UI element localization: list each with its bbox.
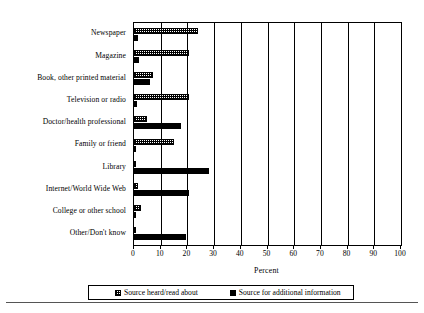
legend: Source heard/read about Source for addit…	[88, 285, 354, 300]
bar-group	[134, 90, 401, 112]
legend-item-heard-read-about: Source heard/read about	[115, 288, 198, 297]
bar	[134, 161, 136, 167]
y-axis-label: Magazine	[2, 44, 130, 66]
bar	[134, 212, 136, 218]
legend-label: Source heard/read about	[124, 288, 198, 297]
bar	[134, 35, 138, 41]
legend-swatch-checkered-icon	[115, 290, 121, 296]
x-axis-tick-label: 80	[343, 250, 351, 258]
bar-spacer	[134, 211, 401, 212]
legend-swatch-solid-icon	[230, 290, 236, 296]
y-axis-label: Internet/World Wide Web	[2, 177, 130, 199]
y-axis-label: Newspaper	[2, 22, 130, 44]
y-axis-label: Doctor/health professional	[2, 111, 130, 133]
x-axis-tick-label: 0	[131, 250, 135, 258]
legend-item-additional-information: Source for additional information	[230, 288, 341, 297]
y-axis-category-labels: Newspaper Magazine Book, other printed m…	[2, 22, 130, 244]
bar-spacer	[134, 78, 401, 79]
bar-group	[134, 134, 401, 156]
bar	[134, 116, 147, 122]
y-axis-label: Family or friend	[2, 133, 130, 155]
x-axis-tick-label: 10	[156, 250, 164, 258]
y-axis-label: College or other school	[2, 200, 130, 222]
y-axis-label: Television or radio	[2, 89, 130, 111]
plot-area	[133, 22, 402, 246]
bar	[134, 123, 181, 129]
bar	[134, 101, 137, 107]
x-axis-tick-label: 50	[263, 250, 271, 258]
bar-group	[134, 23, 401, 45]
y-axis-label: Other/Don't know	[2, 222, 130, 244]
bar	[134, 57, 139, 63]
bottom-divider	[6, 302, 418, 303]
bar	[134, 205, 141, 211]
bar	[134, 168, 209, 174]
bar	[134, 79, 150, 85]
bar	[134, 183, 138, 189]
x-axis-tick-label: 90	[370, 250, 378, 258]
bar-group	[134, 45, 401, 67]
bar-spacer	[134, 34, 401, 35]
bar-group	[134, 112, 401, 134]
x-axis-title: Percent	[133, 266, 400, 275]
figure: Newspaper Magazine Book, other printed m…	[0, 0, 424, 313]
x-axis-tick-label: 70	[316, 250, 324, 258]
bar-group	[134, 223, 401, 245]
bar-group	[134, 201, 401, 223]
bar	[134, 28, 198, 34]
x-axis-tick-label: 30	[209, 250, 217, 258]
legend-label: Source for additional information	[239, 288, 341, 297]
bar-group	[134, 67, 401, 89]
bar	[134, 139, 174, 145]
y-axis-label: Library	[2, 155, 130, 177]
bar	[134, 146, 136, 152]
x-axis-tick-label: 20	[183, 250, 191, 258]
bar	[134, 234, 186, 240]
x-axis-tick-label: 60	[289, 250, 297, 258]
bar	[134, 72, 153, 78]
x-axis-tick-label: 40	[236, 250, 244, 258]
bar-spacer	[134, 100, 401, 101]
bar-group	[134, 178, 401, 200]
bar	[134, 227, 136, 233]
bar-spacer	[134, 56, 401, 57]
bar-spacer	[134, 145, 401, 146]
bar-chart: Newspaper Magazine Book, other printed m…	[0, 8, 424, 258]
bar	[134, 94, 189, 100]
x-axis-tick-label: 100	[394, 250, 405, 258]
bar	[134, 50, 189, 56]
bar-group	[134, 156, 401, 178]
bar-series-container	[134, 23, 401, 245]
y-axis-label: Book, other printed material	[2, 66, 130, 88]
bar	[134, 190, 189, 196]
